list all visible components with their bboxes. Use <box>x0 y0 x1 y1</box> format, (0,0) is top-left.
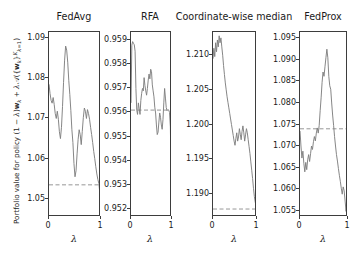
x-tick-label: 0 <box>296 221 301 230</box>
y-tick-mark <box>296 59 299 60</box>
y-tick-label: 0.956 <box>0 107 127 116</box>
y-tick-mark <box>209 89 212 90</box>
y-tick-mark <box>209 158 212 159</box>
x-tick-label: 0 <box>209 221 214 230</box>
x-tick-mark <box>299 216 300 219</box>
x-axis-label: λ <box>231 233 237 244</box>
x-tick-label: 0 <box>127 221 132 230</box>
x-axis-label: λ <box>320 233 326 244</box>
data-series-line <box>300 49 347 211</box>
y-tick-mark <box>296 37 299 38</box>
x-tick-mark <box>100 216 101 219</box>
y-tick-label: 1.060 <box>0 184 296 193</box>
subplot-title: FedAvg <box>57 11 92 22</box>
y-tick-mark <box>296 102 299 103</box>
y-tick-mark <box>45 198 48 199</box>
y-tick-label: 1.075 <box>0 119 296 128</box>
x-tick-mark <box>347 216 348 219</box>
y-tick-mark <box>296 145 299 146</box>
curve-layer <box>300 32 347 216</box>
subplot-title: Coordinate-wise median <box>176 11 292 22</box>
x-tick-mark <box>130 216 131 219</box>
x-axis-label: λ <box>147 233 153 244</box>
x-tick-mark <box>256 216 257 219</box>
y-tick-mark <box>127 111 130 112</box>
y-tick-mark <box>296 80 299 81</box>
y-tick-mark <box>127 63 130 64</box>
y-tick-label: 1.080 <box>0 97 296 106</box>
y-tick-label: 0.955 <box>0 131 127 140</box>
x-tick-label: 0 <box>45 221 50 230</box>
y-tick-label: 1.070 <box>0 141 296 150</box>
x-tick-label: 1 <box>344 221 349 230</box>
y-tick-mark <box>209 193 212 194</box>
y-tick-label: 1.065 <box>0 162 296 171</box>
y-tick-mark <box>296 210 299 211</box>
y-tick-mark <box>296 167 299 168</box>
y-tick-label: 1.090 <box>0 54 296 63</box>
y-tick-label: 1.095 <box>0 33 296 42</box>
y-tick-label: 1.085 <box>0 76 296 85</box>
subplot-title: FedProx <box>304 11 342 22</box>
subplot-title: RFA <box>141 11 159 22</box>
x-tick-mark <box>48 216 49 219</box>
y-tick-mark <box>296 188 299 189</box>
x-tick-label: 1 <box>168 221 173 230</box>
x-tick-mark <box>212 216 213 219</box>
plot-area <box>299 31 347 216</box>
y-tick-label: 1.055 <box>0 205 296 214</box>
x-axis-label: λ <box>71 233 77 244</box>
x-tick-label: 1 <box>97 221 102 230</box>
y-tick-mark <box>296 124 299 125</box>
figure-root: Portfolio value for policy (1 − λ)wk + λ… <box>0 0 357 260</box>
x-tick-label: 1 <box>253 221 258 230</box>
x-tick-mark <box>171 216 172 219</box>
y-tick-label: 1.205 <box>0 84 209 93</box>
y-tick-mark <box>127 136 130 137</box>
